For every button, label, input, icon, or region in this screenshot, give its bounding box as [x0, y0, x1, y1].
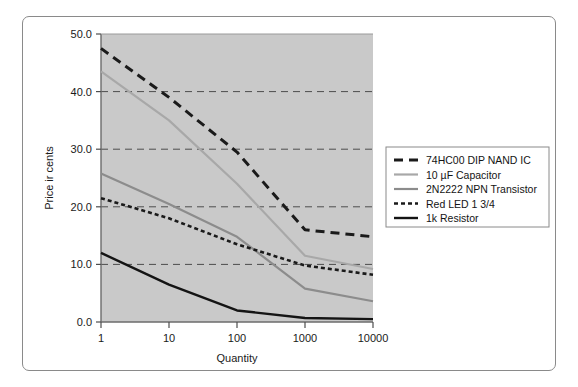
x-tick-label: 1 [98, 332, 104, 344]
y-tick-label: 10.0 [71, 258, 92, 270]
x-tick-label: 1000 [293, 332, 317, 344]
legend-label-3: Red LED 1 3/4 [426, 198, 495, 210]
x-tick-label: 100 [228, 332, 246, 344]
legend-label-1: 10 µF Capacitor [426, 169, 501, 181]
figure-frame: 0.010.020.030.040.050.0110100100010000Qu… [22, 16, 556, 371]
y-tick-label: 30.0 [71, 143, 92, 155]
legend-label-2: 2N2222 NPN Transistor [426, 183, 537, 195]
price-vs-quantity-chart: 0.010.020.030.040.050.0110100100010000Qu… [23, 17, 557, 372]
y-axis-title: Price ir cents [43, 146, 55, 210]
x-tick-label: 10000 [358, 332, 389, 344]
legend-label-4: 1k Resistor [426, 212, 479, 224]
y-tick-label: 50.0 [71, 28, 92, 40]
legend-label-0: 74HC00 DIP NAND IC [426, 154, 531, 166]
x-tick-label: 10 [163, 332, 175, 344]
y-tick-label: 40.0 [71, 86, 92, 98]
y-tick-label: 0.0 [77, 316, 92, 328]
y-tick-label: 20.0 [71, 201, 92, 213]
x-axis-title: Quantity [217, 352, 258, 364]
